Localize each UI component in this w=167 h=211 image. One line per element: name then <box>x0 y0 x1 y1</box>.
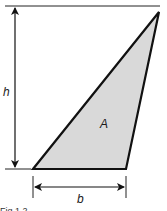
base-label: b <box>77 192 84 206</box>
triangle-diagram: h A b Fig 1.2 <box>0 0 167 211</box>
area-label: A <box>99 117 108 131</box>
figure-caption: Fig 1.2 <box>0 206 28 211</box>
height-label: h <box>3 85 10 99</box>
triangle-shape <box>33 12 159 169</box>
